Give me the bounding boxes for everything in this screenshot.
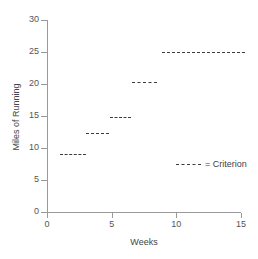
y-axis-tick (41, 148, 47, 149)
y-axis-tick-label: 0 (1, 207, 39, 216)
x-axis-tick (47, 213, 48, 218)
x-axis-tick-label: 5 (102, 220, 122, 229)
criterion-step-segment (162, 52, 245, 53)
chart-figure: 051015202530 051015 Weeks Miles of Runni… (0, 0, 258, 259)
y-axis-tick-label: 30 (1, 15, 39, 24)
criterion-step-segment (86, 133, 109, 134)
legend: = Criterion (176, 160, 247, 169)
x-axis-tick-label: 10 (166, 220, 186, 229)
legend-label-criterion: = Criterion (205, 160, 247, 169)
y-axis-tick (41, 180, 47, 181)
x-axis-tick (176, 213, 177, 218)
y-axis-tick (41, 84, 47, 85)
y-axis-title: Miles of Running (11, 52, 21, 182)
legend-dashed-line-swatch (176, 164, 201, 165)
x-axis-title: Weeks (47, 237, 241, 247)
x-axis-line (47, 212, 241, 213)
y-axis-tick (41, 20, 47, 21)
y-axis-tick (41, 116, 47, 117)
y-axis-line (47, 20, 48, 213)
y-axis-tick-label-wrap: 0 (0, 207, 39, 216)
x-axis-tick-label: 0 (37, 220, 57, 229)
x-axis-tick-label: 15 (231, 220, 251, 229)
y-axis-tick (41, 52, 47, 53)
criterion-step-segment (60, 154, 86, 155)
criterion-step-segment (132, 82, 157, 83)
x-axis-tick (241, 213, 242, 218)
x-axis-tick (112, 213, 113, 218)
y-axis-tick-label-wrap: 30 (0, 15, 39, 24)
criterion-step-segment (110, 117, 131, 118)
